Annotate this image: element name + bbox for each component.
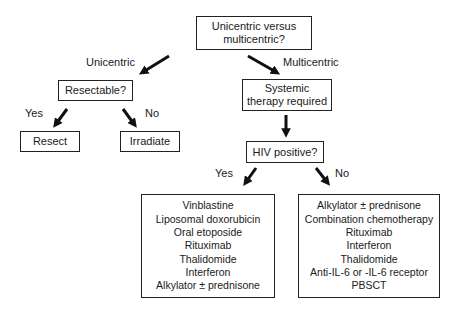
hiv-question-box: HIV positive? (246, 141, 324, 163)
resectable-question-box: Resectable? (58, 80, 133, 101)
resectable-yes-label: Yes (25, 107, 43, 120)
irradiate-box: Irradiate (120, 131, 180, 152)
root-question-line2: multicentric? (223, 33, 285, 46)
unicentric-label: Unicentric (86, 56, 135, 69)
treatment-item: Combination chemotherapy (305, 213, 433, 226)
arrow-resectable-yes (56, 109, 67, 124)
treatment-item: Alkylator ± prednisone (317, 199, 421, 212)
arrow-unicentric (143, 56, 169, 72)
treatment-item: Liposomal doxorubicin (156, 213, 260, 226)
arrow-hiv-no (316, 168, 327, 182)
treatment-item: Thalidomide (179, 253, 236, 266)
hiv-yes-treatment-list: Vinblastine Liposomal doxorubicin Oral e… (141, 194, 275, 298)
treatment-item: Alkylator ± prednisone (156, 279, 260, 292)
irradiate-text: Irradiate (130, 135, 170, 148)
arrow-resectable-no (123, 109, 134, 124)
root-question-line1: Unicentric versus (212, 20, 296, 33)
multicentric-label: Multicentric (283, 56, 339, 69)
systemic-line1: Systemic (265, 82, 310, 95)
hiv-yes-label: Yes (215, 167, 233, 180)
hiv-no-treatment-list: Alkylator ± prednisone Combination chemo… (298, 194, 440, 298)
resect-box: Resect (20, 131, 80, 152)
resectable-no-label: No (145, 107, 159, 120)
systemic-line2: therapy required (247, 95, 327, 108)
treatment-item: PBSCT (351, 279, 386, 292)
treatment-item: Oral etoposide (174, 226, 242, 239)
root-question-box: Unicentric versus multicentric? (196, 16, 312, 50)
arrow-multicentric (248, 56, 276, 72)
treatment-item: Vinblastine (182, 199, 233, 212)
treatment-item: Interferon (186, 266, 231, 279)
hiv-question-text: HIV positive? (253, 146, 318, 159)
treatment-item: Anti-IL-6 or -IL-6 receptor (310, 266, 428, 279)
resectable-question-text: Resectable? (65, 84, 126, 97)
treatment-item: Thalidomide (340, 253, 397, 266)
treatment-item: Rituximab (346, 226, 393, 239)
resect-text: Resect (33, 135, 67, 148)
treatment-item: Rituximab (185, 239, 232, 252)
treatment-item: Interferon (347, 239, 392, 252)
arrow-hiv-yes (246, 168, 256, 182)
systemic-therapy-box: Systemic therapy required (242, 79, 332, 111)
hiv-no-label: No (335, 167, 349, 180)
